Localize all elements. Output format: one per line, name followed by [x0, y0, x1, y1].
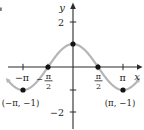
- left-minimum-coordinate-label: (−π, −1): [2, 98, 40, 108]
- x-tick-label-neg-pi: −π: [15, 72, 29, 83]
- x-tick-label-neg-pi-half-numerator: π: [46, 72, 51, 81]
- right-minimum-coordinate-label: (π, −1): [105, 98, 136, 108]
- y-axis-arrowhead-icon: [70, 3, 76, 10]
- x-tick-label-neg-pi-half-denominator: 2: [46, 82, 51, 91]
- x-tick-label-pi: π: [119, 72, 125, 83]
- y-tick-label-neg-2: −2: [50, 107, 64, 118]
- plotted-point: [70, 41, 75, 46]
- plotted-point: [120, 87, 125, 92]
- plotted-point: [95, 64, 100, 69]
- x-tick-label-neg-pi-half-sign: −: [36, 75, 43, 84]
- x-tick-label-pi-half-numerator: π: [96, 72, 101, 81]
- plotted-point: [45, 64, 50, 69]
- cosine-graph-figure: y 2 −2 x −π π − π 2 π 2 (−π, −1) (π, −1): [0, 0, 144, 130]
- x-axis-label: x: [134, 71, 140, 82]
- y-tick-label-2: 2: [58, 17, 64, 28]
- x-tick-label-pi-half-denominator: 2: [96, 82, 101, 91]
- scan-artifact-speck: [0, 8, 2, 11]
- x-axis-arrowhead-icon: [137, 64, 143, 70]
- plotted-point: [20, 87, 25, 92]
- y-axis-label: y: [58, 2, 65, 13]
